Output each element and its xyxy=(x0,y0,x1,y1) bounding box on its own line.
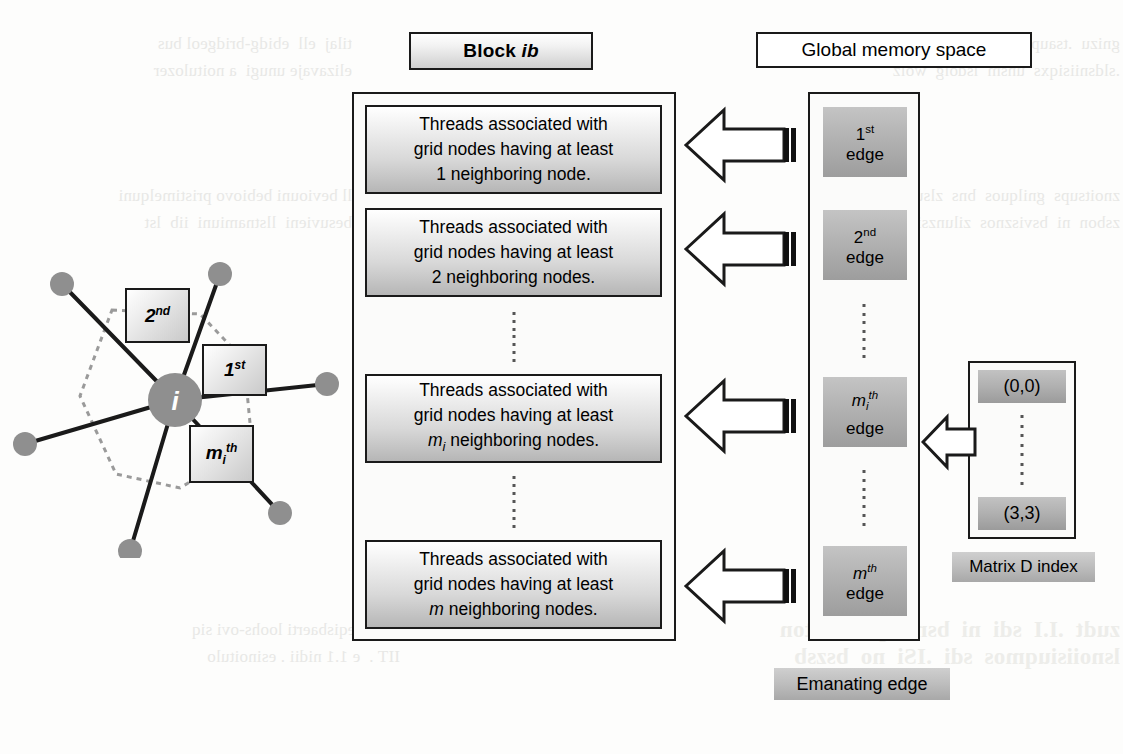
emanating-edge-label: Emanating edge xyxy=(774,668,950,700)
thread-box-2: Threads associated with grid nodes havin… xyxy=(365,208,662,297)
thread-box-4-count: m xyxy=(429,599,444,619)
matrix-d-index-column: (0,0) (3,3) xyxy=(968,361,1076,539)
thread-box-3-count-sub: i xyxy=(442,439,445,454)
thread-box-1-line1: Threads associated with xyxy=(419,114,608,134)
edge-chip-2-suffix: nd xyxy=(863,226,876,238)
mapping-arrow-1-icon xyxy=(684,104,800,186)
block-ellipsis-2 xyxy=(513,476,516,528)
bleed-text-top-left: tilaj ell ebidg-bridgeol bus elizavaje u… xyxy=(154,30,352,84)
edge-chip-2: 2nd edge xyxy=(823,210,907,280)
thread-box-4-tail: neighboring nodes. xyxy=(449,599,598,619)
matrix-index-arrow-icon xyxy=(921,411,977,473)
node-label-mith: mith xyxy=(189,425,254,483)
block-ib-container: Threads associated with grid nodes havin… xyxy=(352,92,676,641)
global-memory-ellipsis-2 xyxy=(863,470,866,526)
edge-chip-3-word: edge xyxy=(846,418,884,439)
thread-box-3-tail: neighboring nodes. xyxy=(450,430,599,450)
edge-chip-1-ordinal: 1 xyxy=(856,124,865,143)
thread-box-1: Threads associated with grid nodes havin… xyxy=(365,105,662,194)
matrix-index-chip-last: (3,3) xyxy=(978,497,1066,530)
matrix-d-index-label: Matrix D index xyxy=(952,552,1095,582)
node-label-1st-suffix: st xyxy=(234,358,245,372)
edge-chip-3: mith edge xyxy=(823,377,907,447)
thread-box-3-line1: Threads associated with xyxy=(419,380,608,400)
thread-box-3: Threads associated with grid nodes havin… xyxy=(365,374,662,463)
edge-chip-4-suffix: th xyxy=(867,562,877,574)
thread-box-4-line1: Threads associated with xyxy=(419,549,608,569)
thread-box-4: Threads associated with grid nodes havin… xyxy=(365,540,662,629)
matrix-ellipsis xyxy=(1021,415,1024,485)
edge-chip-2-word: edge xyxy=(846,247,884,268)
matrix-index-chip-first: (0,0) xyxy=(978,370,1066,403)
edge-chip-3-ordinal: m xyxy=(852,391,866,410)
thread-box-2-count: 2 xyxy=(432,267,442,287)
node-label-1st-text: 1 xyxy=(224,360,235,381)
edge-chip-1: 1st edge xyxy=(823,107,907,177)
mapping-arrow-4-icon xyxy=(684,545,800,627)
node-label-mith-suffix: th xyxy=(226,441,237,455)
global-memory-column: 1st edge 2nd edge mith edge mth edge xyxy=(808,92,920,641)
global-memory-ellipsis-1 xyxy=(863,304,866,358)
edge-chip-1-word: edge xyxy=(846,144,884,165)
edge-chip-4-word: edge xyxy=(846,583,884,604)
node-label-2nd-suffix: nd xyxy=(155,304,170,318)
edge-chip-4-ordinal: m xyxy=(853,563,867,582)
block-ib-header: Block ib xyxy=(409,32,593,70)
node-label-2nd-text: 2 xyxy=(145,305,156,326)
thread-box-2-line1: Threads associated with xyxy=(419,217,608,237)
node-label-mith-sub: i xyxy=(223,453,226,467)
thread-box-3-line2: grid nodes having at least xyxy=(414,405,613,425)
thread-box-2-tail: neighboring nodes. xyxy=(446,267,595,287)
block-ib-header-prefix: Block xyxy=(463,40,516,62)
block-ellipsis-1 xyxy=(513,312,516,362)
thread-box-1-count: 1 xyxy=(436,164,446,184)
node-label-mith-text: m xyxy=(206,442,223,463)
node-diagram-label-layer: 2nd 1st mith xyxy=(12,248,342,558)
figure-canvas: gnizu .tsaupar tsun bns zsidsinsv .sldsn… xyxy=(0,0,1123,754)
edge-chip-4: mth edge xyxy=(823,546,907,616)
global-memory-space-header: Global memory space xyxy=(756,32,1032,68)
thread-box-1-line2: grid nodes having at least xyxy=(414,139,613,159)
edge-chip-2-ordinal: 2 xyxy=(854,227,863,246)
bleed-text-mid-left: ll beviouni bebiovo pristimelquni besuvi… xyxy=(118,182,352,236)
node-label-2nd: 2nd xyxy=(125,288,190,343)
mapping-arrow-2-icon xyxy=(684,208,800,290)
thread-box-1-tail: neighboring node. xyxy=(451,164,591,184)
edge-chip-3-suffix: th xyxy=(869,389,879,401)
thread-box-3-count: m xyxy=(428,430,443,450)
block-ib-header-symbol: ib xyxy=(521,40,538,62)
mapping-arrow-3-icon xyxy=(684,375,800,457)
edge-chip-1-suffix: st xyxy=(865,123,874,135)
thread-box-2-line2: grid nodes having at least xyxy=(414,242,613,262)
node-label-1st: 1st xyxy=(202,344,267,396)
edge-chip-3-sub: i xyxy=(866,401,869,413)
thread-box-4-line2: grid nodes having at least xyxy=(414,574,613,594)
